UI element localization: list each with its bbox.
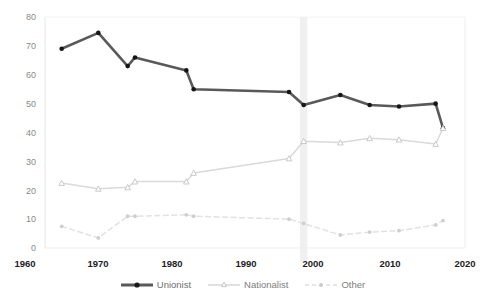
data-point	[133, 214, 137, 218]
data-point	[126, 214, 130, 218]
y-tick-40: 40	[10, 128, 36, 138]
y-tick-20: 20	[10, 186, 36, 196]
y-tick-60: 60	[10, 70, 36, 80]
data-point	[302, 222, 306, 226]
x-tick-1990: 1990	[226, 258, 266, 269]
x-tick-1980: 1980	[152, 258, 192, 269]
data-point	[125, 64, 130, 69]
y-tick-10: 10	[10, 214, 36, 224]
data-point	[287, 90, 292, 95]
y-tick-80: 80	[10, 12, 36, 22]
y-tick-50: 50	[10, 99, 36, 109]
data-point	[397, 104, 402, 109]
legend-swatch-unionist-icon	[120, 280, 154, 290]
data-point	[191, 87, 196, 92]
data-point	[133, 55, 138, 60]
data-point	[184, 213, 188, 217]
x-tick-1960: 1960	[5, 258, 45, 269]
chart-legend: Unionist Nationalist Other	[0, 276, 485, 294]
line-chart: 80 70 60 50 40 30 20 10 0 1960 1970 1980…	[0, 0, 485, 296]
data-point	[433, 101, 438, 106]
data-point	[338, 93, 343, 98]
x-tick-2020: 2020	[445, 258, 485, 269]
data-point	[184, 68, 189, 73]
data-point	[441, 219, 445, 223]
y-tick-30: 30	[10, 157, 36, 167]
legend-label-unionist: Unionist	[157, 280, 191, 290]
data-point	[367, 103, 372, 108]
data-point	[96, 31, 101, 36]
x-tick-2000: 2000	[293, 258, 333, 269]
data-point	[287, 217, 291, 221]
data-point	[301, 103, 306, 108]
legend-item-other[interactable]: Other	[304, 280, 365, 290]
data-point	[96, 236, 100, 240]
data-point	[397, 229, 401, 233]
data-point	[60, 224, 64, 228]
legend-label-other: Other	[341, 280, 365, 290]
x-tick-1970: 1970	[78, 258, 118, 269]
legend-item-nationalist[interactable]: Nationalist	[207, 280, 288, 290]
y-tick-70: 70	[10, 41, 36, 51]
data-point	[338, 233, 342, 237]
y-tick-0: 0	[10, 243, 36, 253]
legend-item-unionist[interactable]: Unionist	[120, 280, 191, 290]
data-point	[434, 223, 438, 227]
data-point	[192, 214, 196, 218]
data-point	[59, 46, 64, 51]
x-tick-2010: 2010	[370, 258, 410, 269]
legend-swatch-other-icon	[304, 280, 338, 290]
plot-background	[45, 17, 465, 248]
legend-label-nationalist: Nationalist	[244, 280, 288, 290]
plot-area	[0, 0, 485, 296]
legend-swatch-nationalist-icon	[207, 280, 241, 290]
data-point	[368, 230, 372, 234]
